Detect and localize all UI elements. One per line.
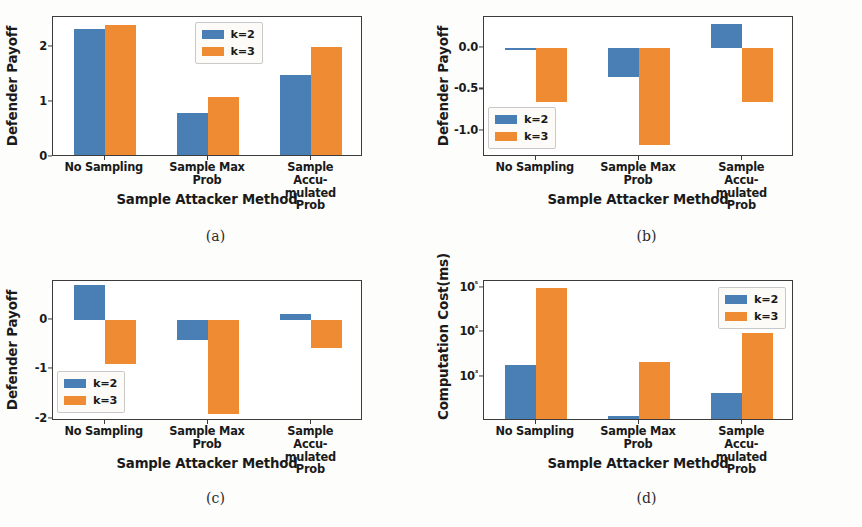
bar-b-1-k2 bbox=[608, 48, 639, 77]
panel-d-legend: k=2k=3 bbox=[718, 287, 786, 329]
bar-a-0-k2 bbox=[74, 29, 105, 156]
panel-a: Defender Payoff 012 No SamplingSample Ma… bbox=[0, 0, 431, 263]
panel-b-xtick-mark bbox=[741, 156, 742, 160]
panel-d-plot: 10⁵10⁴10³ No SamplingSample Max ProbSamp… bbox=[483, 280, 793, 420]
panel-d-ytick-label: 10⁴ bbox=[459, 324, 478, 339]
panel-c-legend: k=2k=3 bbox=[57, 371, 125, 413]
bar-d-1-k3 bbox=[639, 362, 670, 420]
legend-swatch-icon-k=2 bbox=[495, 115, 517, 124]
bar-d-2-k3 bbox=[742, 333, 773, 420]
panel-b-ytick-label: 0.0 bbox=[459, 40, 478, 54]
bar-d-0-k2 bbox=[505, 365, 536, 420]
bar-a-2-k3 bbox=[311, 47, 342, 156]
panel-a-ylabel-holder: Defender Payoff bbox=[8, 16, 26, 156]
bar-a-1-k3 bbox=[208, 97, 239, 156]
panel-c-xtick-mark bbox=[207, 420, 208, 424]
panel-a-ytick-mark bbox=[48, 101, 52, 102]
panel-d-ytick-label: 10⁵ bbox=[459, 279, 478, 294]
bar-b-2-k3 bbox=[742, 48, 773, 102]
panel-c-caption: (c) bbox=[0, 490, 431, 506]
panel-a-xtick-mark bbox=[310, 156, 311, 160]
legend-label: k=3 bbox=[524, 130, 548, 143]
legend-label: k=2 bbox=[231, 28, 255, 41]
panel-c-ylabel: Defender Payoff bbox=[4, 280, 22, 420]
bar-c-0-k3 bbox=[105, 320, 136, 365]
panel-d: Computation Cost(ms) 10⁵10⁴10³ No Sampli… bbox=[431, 264, 862, 527]
panel-b-xtick-1: Sample Max Prob bbox=[600, 161, 675, 187]
legend-label: k=2 bbox=[524, 113, 548, 126]
panel-b-xtick-0: No Sampling bbox=[495, 161, 574, 174]
legend-swatch-icon-k=3 bbox=[725, 312, 747, 321]
panel-a-ytick-label: 0 bbox=[39, 149, 47, 163]
panel-d-ylabel: Computation Cost(ms) bbox=[435, 280, 453, 420]
bar-d-1-k2 bbox=[608, 416, 639, 420]
panel-a-ylabel: Defender Payoff bbox=[4, 16, 22, 156]
panel-a-xlabel: Sample Attacker Method bbox=[52, 192, 362, 207]
figure-bar-chart-grid: Defender Payoff 012 No SamplingSample Ma… bbox=[0, 0, 862, 527]
panel-d-xtick-mark bbox=[638, 420, 639, 424]
panel-a-xtick-mark bbox=[207, 156, 208, 160]
panel-d-caption: (d) bbox=[431, 490, 862, 506]
panel-c: Defender Payoff 0-1-2 No SamplingSample … bbox=[0, 264, 431, 527]
legend-label: k=3 bbox=[231, 45, 255, 58]
panel-d-xtick-mark bbox=[741, 420, 742, 424]
panel-c-xtick-1: Sample Max Prob bbox=[169, 425, 244, 451]
panel-c-ylabel-holder: Defender Payoff bbox=[8, 280, 26, 420]
legend-row-k=3: k=3 bbox=[495, 130, 548, 143]
bar-c-0-k2 bbox=[74, 285, 105, 320]
panel-d-xtick-1: Sample Max Prob bbox=[600, 425, 675, 451]
panel-a-xtick-0: No Sampling bbox=[64, 161, 143, 174]
panel-b-xlabel: Sample Attacker Method bbox=[483, 192, 793, 207]
bar-b-0-k3 bbox=[536, 48, 567, 102]
bar-c-1-k3 bbox=[208, 320, 239, 414]
legend-swatch-icon-k=2 bbox=[64, 379, 86, 388]
legend-row-k=3: k=3 bbox=[64, 394, 117, 407]
panel-b-xtick-mark bbox=[638, 156, 639, 160]
panel-b: Defender Payoff 0.0-0.5-1.0 No SamplingS… bbox=[431, 0, 862, 263]
legend-row-k=3: k=3 bbox=[725, 310, 778, 323]
panel-b-ytick-label: -0.5 bbox=[454, 81, 478, 95]
panel-d-ytick-mark bbox=[479, 330, 483, 331]
panel-c-xtick-0: No Sampling bbox=[64, 425, 143, 438]
bar-a-1-k2 bbox=[177, 113, 208, 156]
legend-row-k=2: k=2 bbox=[495, 113, 548, 126]
legend-row-k=3: k=3 bbox=[202, 45, 255, 58]
panel-a-ytick-label: 1 bbox=[39, 94, 47, 108]
bar-b-1-k3 bbox=[639, 48, 670, 144]
bar-a-0-k3 bbox=[105, 25, 136, 156]
panel-a-ytick-mark bbox=[48, 155, 52, 156]
panel-d-xlabel: Sample Attacker Method bbox=[483, 456, 793, 471]
panel-a-xtick-mark bbox=[104, 156, 105, 160]
panel-d-xtick-mark bbox=[535, 420, 536, 424]
panel-c-ytick-mark bbox=[48, 318, 52, 319]
panel-c-xlabel: Sample Attacker Method bbox=[52, 456, 362, 471]
panel-c-ytick-mark bbox=[48, 417, 52, 418]
bar-a-2-k2 bbox=[280, 75, 311, 156]
panel-b-legend: k=2k=3 bbox=[488, 107, 556, 149]
panel-b-ytick-mark bbox=[479, 47, 483, 48]
panel-b-plot: 0.0-0.5-1.0 No SamplingSample Max ProbSa… bbox=[483, 16, 793, 156]
panel-d-ytick-mark bbox=[479, 375, 483, 376]
bar-d-2-k2 bbox=[711, 393, 742, 420]
bar-b-0-k2 bbox=[505, 48, 536, 50]
legend-label: k=2 bbox=[93, 377, 117, 390]
panel-b-ylabel: Defender Payoff bbox=[435, 16, 453, 156]
legend-label: k=2 bbox=[754, 293, 778, 306]
panel-d-ytick-label: 10³ bbox=[459, 368, 478, 383]
legend-swatch-icon-k=3 bbox=[202, 47, 224, 56]
legend-label: k=3 bbox=[93, 394, 117, 407]
panel-a-xtick-1: Sample Max Prob bbox=[169, 161, 244, 187]
panel-c-plot: 0-1-2 No SamplingSample Max ProbSample A… bbox=[52, 280, 362, 420]
bar-c-2-k3 bbox=[311, 320, 342, 349]
panel-c-ytick-label: -2 bbox=[35, 411, 47, 425]
bar-b-2-k2 bbox=[711, 24, 742, 49]
panel-c-ytick-label: -1 bbox=[35, 361, 47, 375]
panel-c-ytick-mark bbox=[48, 368, 52, 369]
panel-c-xtick-mark bbox=[104, 420, 105, 424]
panel-b-ytick-mark bbox=[479, 129, 483, 130]
panel-b-ytick-mark bbox=[479, 88, 483, 89]
panel-c-ytick-label: 0 bbox=[39, 312, 47, 326]
legend-label: k=3 bbox=[754, 310, 778, 323]
panel-b-xtick-mark bbox=[535, 156, 536, 160]
panel-d-ylabel-holder: Computation Cost(ms) bbox=[439, 280, 457, 420]
